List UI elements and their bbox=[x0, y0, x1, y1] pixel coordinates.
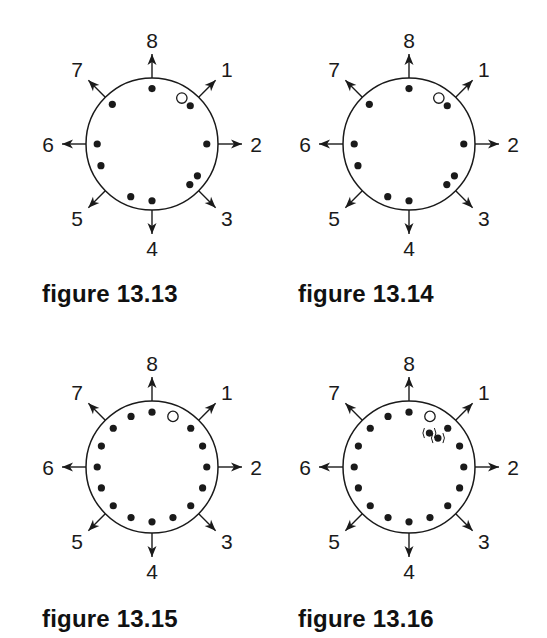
figure-caption: figure 13.15 bbox=[42, 605, 178, 633]
direction-label: 2 bbox=[250, 456, 262, 479]
direction-arrow-8: 8 bbox=[146, 29, 158, 79]
filled-dot bbox=[355, 442, 362, 449]
filled-dot bbox=[110, 502, 117, 509]
boundary-circle bbox=[86, 401, 218, 533]
direction-arrow-2: 2 bbox=[475, 456, 519, 479]
direction-arrow-3: 3 bbox=[199, 514, 233, 554]
direction-diagram: 81234567 bbox=[22, 323, 282, 593]
filled-dot bbox=[460, 140, 467, 147]
direction-arrow-2: 2 bbox=[218, 456, 262, 479]
filled-dot bbox=[355, 484, 362, 491]
direction-label: 8 bbox=[146, 352, 158, 375]
filled-dot bbox=[187, 425, 194, 432]
filled-dot bbox=[194, 172, 201, 179]
figure-panel-13-14: 81234567 figure 13.14 bbox=[279, 0, 539, 320]
filled-dot bbox=[444, 102, 451, 109]
filled-dot bbox=[351, 463, 358, 470]
direction-label: 7 bbox=[71, 58, 83, 81]
boundary-circle bbox=[86, 78, 218, 210]
open-dot bbox=[168, 411, 178, 421]
direction-arrow-8: 8 bbox=[146, 352, 158, 402]
direction-label: 6 bbox=[42, 133, 54, 156]
figure-caption: figure 13.13 bbox=[42, 280, 178, 308]
direction-arrow-5: 5 bbox=[71, 514, 105, 554]
open-dot bbox=[434, 93, 444, 103]
direction-label: 1 bbox=[478, 381, 490, 404]
filled-dot bbox=[148, 518, 155, 525]
filled-dot bbox=[94, 140, 101, 147]
direction-arrow-4: 4 bbox=[146, 210, 158, 260]
direction-arrow-6: 6 bbox=[42, 133, 86, 156]
direction-label: 8 bbox=[403, 29, 415, 52]
filled-dot bbox=[98, 484, 105, 491]
filled-dot bbox=[451, 172, 458, 179]
direction-label: 6 bbox=[42, 456, 54, 479]
direction-label: 4 bbox=[146, 560, 158, 583]
direction-arrow-4: 4 bbox=[403, 210, 415, 260]
direction-label: 8 bbox=[146, 29, 158, 52]
direction-arrow-3: 3 bbox=[456, 514, 490, 554]
filled-dot bbox=[94, 463, 101, 470]
direction-label: 7 bbox=[328, 381, 340, 404]
direction-arrow-6: 6 bbox=[299, 133, 343, 156]
direction-arrow-8: 8 bbox=[403, 29, 415, 79]
direction-arrow-7: 7 bbox=[328, 381, 362, 421]
direction-label: 3 bbox=[221, 530, 233, 553]
filled-dot bbox=[405, 85, 412, 92]
direction-arrow-7: 7 bbox=[71, 58, 105, 98]
parenthesized-dot bbox=[431, 433, 444, 443]
direction-arrow-6: 6 bbox=[299, 456, 343, 479]
filled-dot bbox=[187, 502, 194, 509]
filled-dot bbox=[351, 140, 358, 147]
filled-dot bbox=[443, 181, 450, 188]
boundary-circle bbox=[343, 78, 475, 210]
filled-dot bbox=[366, 101, 373, 108]
direction-arrow-2: 2 bbox=[475, 133, 519, 156]
figure-panel-13-13: 81234567 figure 13.13 bbox=[22, 0, 282, 320]
direction-label: 5 bbox=[328, 530, 340, 553]
left-paren bbox=[431, 433, 433, 443]
direction-label: 5 bbox=[71, 530, 83, 553]
right-paren bbox=[443, 433, 445, 443]
filled-dot bbox=[456, 442, 463, 449]
direction-arrow-8: 8 bbox=[403, 352, 415, 402]
filled-dot bbox=[127, 413, 134, 420]
direction-arrow-1: 1 bbox=[456, 58, 490, 98]
direction-label: 4 bbox=[146, 237, 158, 260]
direction-arrow-1: 1 bbox=[456, 381, 490, 421]
direction-arrow-5: 5 bbox=[328, 514, 362, 554]
direction-label: 3 bbox=[478, 530, 490, 553]
direction-arrow-4: 4 bbox=[403, 533, 415, 583]
figure-caption: figure 13.14 bbox=[298, 280, 434, 308]
direction-label: 2 bbox=[250, 133, 262, 156]
direction-arrow-6: 6 bbox=[42, 456, 86, 479]
filled-dot bbox=[148, 197, 155, 204]
direction-arrow-5: 5 bbox=[71, 191, 105, 231]
direction-label: 1 bbox=[221, 381, 233, 404]
figure-panel-13-15: 81234567 figure 13.15 bbox=[22, 323, 282, 638]
filled-dot bbox=[384, 193, 391, 200]
direction-label: 7 bbox=[71, 381, 83, 404]
filled-dot bbox=[367, 502, 374, 509]
direction-label: 2 bbox=[507, 456, 519, 479]
figure-caption: figure 13.16 bbox=[298, 605, 434, 633]
direction-arrow-4: 4 bbox=[146, 533, 158, 583]
direction-label: 5 bbox=[71, 207, 83, 230]
filled-dot bbox=[110, 425, 117, 432]
filled-dot bbox=[199, 442, 206, 449]
direction-arrow-3: 3 bbox=[456, 191, 490, 231]
filled-dot bbox=[384, 413, 391, 420]
filled-dot bbox=[203, 140, 210, 147]
direction-arrow-1: 1 bbox=[199, 58, 233, 98]
filled-dot bbox=[169, 514, 176, 521]
open-dot bbox=[177, 93, 187, 103]
filled-dot bbox=[97, 162, 104, 169]
filled-dot bbox=[127, 193, 134, 200]
filled-dot bbox=[127, 514, 134, 521]
filled-dot bbox=[109, 101, 116, 108]
direction-label: 5 bbox=[328, 207, 340, 230]
figure-panel-13-16: 81234567 figure 13.16 bbox=[279, 323, 539, 638]
boundary-circle bbox=[343, 401, 475, 533]
filled-dot bbox=[444, 425, 451, 432]
filled-dot bbox=[98, 442, 105, 449]
